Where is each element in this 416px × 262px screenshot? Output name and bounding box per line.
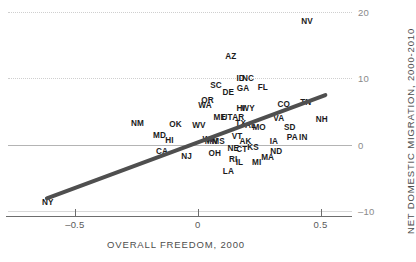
data-point-label: OK [169,120,181,129]
data-point-label: IN [299,133,307,142]
data-point-label: WV [192,120,205,129]
x-axis-line [6,216,352,217]
y-axis-tick-label: 20 [358,7,369,18]
x-axis-title: OVERALL FREEDOM, 2000 [0,239,352,250]
data-point-label: MO [252,122,265,131]
data-point-label: NC [242,73,254,82]
trendline [45,92,329,201]
data-point-label: WA [198,100,211,109]
data-point-label: MD [153,131,166,140]
data-point-label: KS [247,143,259,152]
data-point-label: IA [270,137,278,146]
x-axis-tick [198,209,199,217]
y-axis-tick-label: 10 [358,73,369,84]
data-point-label: MA [261,153,274,162]
y-axis-tick-label: 0 [358,139,363,150]
data-point-label: WY [241,103,254,112]
x-axis-tick [321,209,322,217]
x-axis-tick-label: 0 [195,219,200,230]
data-point-label: SD [284,123,296,132]
data-point-label: MI [252,157,261,166]
data-point-label: FL [258,82,268,91]
x-axis-tick-label: –0.5 [65,219,84,230]
data-point-label: NH [316,115,328,124]
data-point-label: IL [236,157,243,166]
data-point-label: DE [223,87,235,96]
plot-area: NVAZIDNCSCGAFLDEORWACOTNHIWYMEUTARTXVANH… [0,0,352,212]
gridline-10 [8,78,352,80]
data-point-label: NJ [181,151,192,160]
data-point-label: SC [210,80,222,89]
data-point-label: AZ [225,51,236,60]
y-axis-title-text: NET DOMESTIC MIGRATION, 2000-2010 [405,28,416,234]
data-point-label: GA [237,84,249,93]
data-point-label: UT [222,113,233,122]
data-point-label: HI [165,136,173,145]
gridline-neg10 [8,211,352,212]
gridline-20 [8,12,352,14]
data-point-label: NV [301,17,313,26]
data-point-label: CT [236,145,247,154]
x-axis-tick-label: 0.5 [314,219,328,230]
x-axis-tick [75,209,76,217]
data-point-label: LA [223,167,234,176]
data-point-label: PA [287,132,298,141]
data-point-label: OH [209,149,221,158]
y-axis-title: NET DOMESTIC MIGRATION, 2000-2010 [405,131,416,262]
y-axis-tick-label: –10 [358,206,374,217]
data-point-label: NM [131,119,144,128]
